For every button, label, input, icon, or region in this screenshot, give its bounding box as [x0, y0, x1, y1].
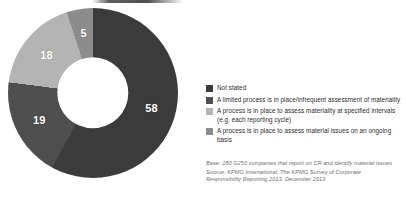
legend-item-ongoing-basis: A process is in place to assess material…	[206, 127, 402, 143]
slice-label-specified-intervals: 18	[40, 49, 53, 61]
legend-label-specified-intervals: A process is in place to assess material…	[217, 107, 402, 123]
source-note: Source: KPMG International, The KPMG Sur…	[206, 169, 396, 184]
chart-legend: Not stated A limited process is in place…	[206, 84, 402, 147]
slice-label-not-stated: 58	[145, 102, 158, 114]
legend-label-ongoing-basis: A process is in place to assess material…	[217, 127, 402, 143]
legend-label-not-stated: Not stated	[217, 84, 246, 92]
slice-label-ongoing-basis: 5	[80, 27, 86, 39]
base-note: Base: 180 G250 companies that report on …	[206, 160, 396, 167]
donut-chart: 58 19 18 5	[6, 6, 202, 204]
legend-swatch-icon-specified-intervals	[206, 108, 213, 115]
legend-item-not-stated: Not stated	[206, 84, 402, 92]
legend-swatch-icon-limited-process	[206, 97, 213, 104]
slice-label-limited-process: 19	[33, 114, 46, 126]
legend-swatch-icon-not-stated	[206, 85, 213, 92]
legend-swatch-icon-ongoing-basis	[206, 128, 213, 135]
source-notes: Base: 180 G250 companies that report on …	[206, 160, 396, 184]
legend-item-limited-process: A limited process is in place/infrequent…	[206, 96, 402, 104]
cropped-title-speck	[100, 0, 103, 2]
donut-graphic: 58 19 18 5	[8, 8, 178, 178]
cropped-title-remnant	[92, 0, 184, 3]
legend-item-specified-intervals: A process is in place to assess material…	[206, 107, 402, 123]
legend-label-limited-process: A limited process is in place/infrequent…	[217, 96, 400, 104]
